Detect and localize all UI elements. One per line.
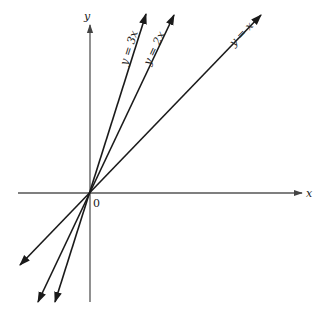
origin-label: 0 (93, 197, 100, 210)
y-axis-label: y (83, 10, 91, 23)
line-y-equals-x (20, 15, 261, 265)
coordinate-plane: x y 0 y = 3x y = 2x y = x (0, 0, 329, 319)
label-y-equals-3x: y = 3x (117, 28, 141, 68)
x-axis-label: x (306, 187, 313, 200)
label-y-equals-2x: y = 2x (141, 29, 169, 68)
